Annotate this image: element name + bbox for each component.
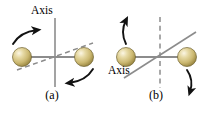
panel-caption-b: (b) [104,88,208,103]
axis-label-b: Axis [108,64,130,76]
sphere-right [75,48,94,67]
figure-root: Axis (a) [0,0,208,113]
sphere-left [13,48,32,67]
rotation-arrow-lower-right [69,69,93,83]
rotation-arrow-upper-left [13,30,37,44]
sphere-right [178,48,197,67]
panel-caption-a: (a) [0,88,104,103]
rotation-arrow-upper-left [123,20,126,44]
axis-label-a: Axis [31,4,53,16]
panel-b: Axis (b) [104,0,208,113]
panel-a: Axis (a) [0,0,104,113]
